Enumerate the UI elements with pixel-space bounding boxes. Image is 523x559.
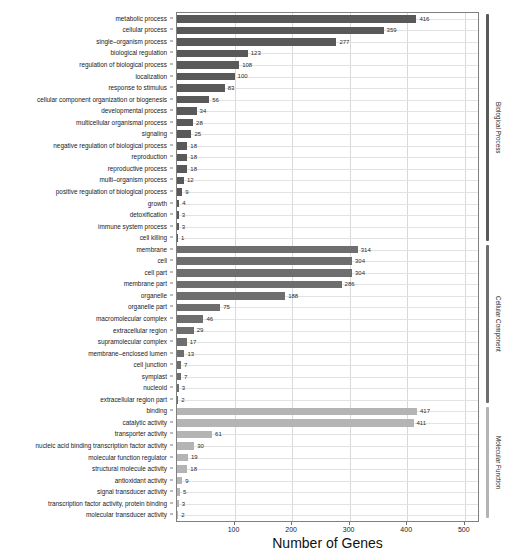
bar-row[interactable]: 304	[177, 257, 478, 265]
x-axis-tick-label: 500	[458, 526, 470, 534]
category-tick	[170, 237, 173, 238]
bar[interactable]	[177, 84, 225, 92]
bar[interactable]	[177, 165, 187, 173]
bar[interactable]	[177, 177, 184, 185]
bar[interactable]	[177, 27, 384, 35]
bar[interactable]	[177, 234, 178, 242]
bar-row[interactable]: 3	[177, 223, 478, 231]
bar[interactable]	[177, 442, 194, 450]
bar-row[interactable]: 277	[177, 38, 478, 46]
bar-row[interactable]: 7	[177, 373, 478, 381]
bar[interactable]	[177, 211, 179, 219]
bar-row[interactable]: 29	[177, 327, 478, 335]
bar[interactable]	[177, 142, 187, 150]
bar-row[interactable]: 1	[177, 234, 478, 242]
bar[interactable]	[177, 431, 212, 439]
bar[interactable]	[177, 73, 235, 81]
bar-row[interactable]: 188	[177, 292, 478, 300]
bar[interactable]	[177, 408, 417, 416]
bar-row[interactable]: 56	[177, 96, 478, 104]
bar[interactable]	[177, 188, 182, 196]
bar[interactable]	[177, 315, 203, 323]
bar[interactable]	[177, 50, 248, 58]
bar-row[interactable]: 123	[177, 50, 478, 58]
bar-row[interactable]: 75	[177, 304, 478, 312]
bar[interactable]	[177, 304, 220, 312]
bar-row[interactable]: 28	[177, 119, 478, 127]
bar[interactable]	[177, 465, 187, 473]
bar-row[interactable]: 18	[177, 465, 478, 473]
bar-value-label: 61	[215, 431, 222, 438]
bar-row[interactable]: 13	[177, 350, 478, 358]
bar-row[interactable]: 9	[177, 188, 478, 196]
bar[interactable]	[177, 107, 197, 115]
bar[interactable]	[177, 396, 178, 404]
bar[interactable]	[177, 488, 180, 496]
bar-row[interactable]: 416	[177, 15, 478, 23]
bar-row[interactable]: 3	[177, 500, 478, 508]
bar[interactable]	[177, 327, 194, 335]
bar[interactable]	[177, 257, 352, 265]
bar-row[interactable]: 4	[177, 200, 478, 208]
bar-row[interactable]: 34	[177, 107, 478, 115]
bar[interactable]	[177, 373, 181, 381]
bar[interactable]	[177, 15, 416, 23]
bar[interactable]	[177, 511, 178, 519]
bar[interactable]	[177, 338, 187, 346]
bar-row[interactable]: 5	[177, 488, 478, 496]
bar-row[interactable]: 411	[177, 419, 478, 427]
bar[interactable]	[177, 477, 182, 485]
bar-row[interactable]: 314	[177, 246, 478, 254]
bar[interactable]	[177, 223, 179, 231]
bar[interactable]	[177, 154, 187, 162]
bar-row[interactable]: 30	[177, 442, 478, 450]
bar-row[interactable]: 7	[177, 361, 478, 369]
bar[interactable]	[177, 281, 342, 289]
bar-row[interactable]: 417	[177, 408, 478, 416]
bar[interactable]	[177, 384, 179, 392]
category-label: structural molecule activity	[92, 465, 167, 472]
bar-row[interactable]: 18	[177, 142, 478, 150]
bar[interactable]	[177, 500, 179, 508]
bar-row[interactable]: 12	[177, 177, 478, 185]
bar[interactable]	[177, 454, 188, 462]
bar-row[interactable]: 18	[177, 165, 478, 173]
bar-row[interactable]: 108	[177, 61, 478, 69]
bar-row[interactable]: 3	[177, 384, 478, 392]
bar[interactable]	[177, 350, 184, 358]
bar[interactable]	[177, 361, 181, 369]
bar[interactable]	[177, 38, 336, 46]
category-label: cell junction	[134, 361, 167, 368]
category-label: membrane–enclosed lumen	[88, 349, 167, 356]
bar[interactable]	[177, 246, 358, 254]
bar-row[interactable]: 286	[177, 281, 478, 289]
category-label: nucleic acid binding transcription facto…	[36, 441, 167, 448]
category-label: metabolic process	[115, 14, 167, 21]
bar-row[interactable]: 83	[177, 84, 478, 92]
bar[interactable]	[177, 419, 414, 427]
bar-value-label: 9	[185, 477, 188, 484]
bar-row[interactable]: 304	[177, 269, 478, 277]
bar[interactable]	[177, 200, 179, 208]
bar-row[interactable]: 18	[177, 154, 478, 162]
bar-row[interactable]: 19	[177, 454, 478, 462]
bar-row[interactable]: 359	[177, 27, 478, 35]
bar-value-label: 123	[251, 50, 261, 57]
bar-row[interactable]: 25	[177, 130, 478, 138]
bar[interactable]	[177, 61, 239, 69]
x-axis-tick	[406, 522, 407, 525]
bar-row[interactable]: 2	[177, 396, 478, 404]
bar-row[interactable]: 100	[177, 73, 478, 81]
bar[interactable]	[177, 119, 193, 127]
bar-row[interactable]: 3	[177, 211, 478, 219]
bar[interactable]	[177, 269, 352, 277]
bar-row[interactable]: 46	[177, 315, 478, 323]
category-tick	[170, 398, 173, 399]
bar-row[interactable]: 17	[177, 338, 478, 346]
bar-row[interactable]: 9	[177, 477, 478, 485]
bar[interactable]	[177, 130, 191, 138]
bar[interactable]	[177, 292, 285, 300]
bar[interactable]	[177, 96, 209, 104]
bar-row[interactable]: 61	[177, 431, 478, 439]
bar-row[interactable]: 2	[177, 511, 478, 519]
